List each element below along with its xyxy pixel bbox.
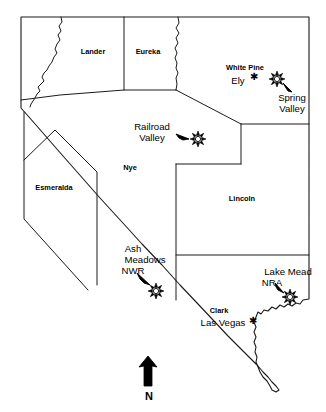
site-label-spring-valley-line1: Spring xyxy=(278,92,306,103)
north-compass-label: N xyxy=(145,390,153,402)
site-label-lake-mead-line2: NRA xyxy=(262,277,283,288)
sunburst-star-icon xyxy=(190,131,206,147)
sunburst-star-icon xyxy=(282,289,298,305)
site-label-ash-meadows-line2: Meadows xyxy=(124,254,165,265)
map-canvas: Lander Eureka White Pine Nye Esmeralda L… xyxy=(0,0,326,412)
county-label-esmeralda: Esmeralda xyxy=(35,183,73,192)
county-label-white-pine: White Pine xyxy=(226,63,264,72)
site-label-spring-valley-line2: Valley xyxy=(279,103,305,114)
site-label-railroad-valley-line1: Railroad xyxy=(134,121,170,132)
nevada-map-figure: Lander Eureka White Pine Nye Esmeralda L… xyxy=(0,0,326,412)
nevada-state-outline xyxy=(21,17,309,392)
city-marker-ely-asterisk: ✱ xyxy=(250,71,258,82)
county-label-lander: Lander xyxy=(81,47,106,56)
site-label-railroad-valley-line2: Valley xyxy=(139,132,165,143)
county-label-clark: Clark xyxy=(210,306,229,315)
county-label-eureka: Eureka xyxy=(136,47,162,56)
sunburst-star-icon xyxy=(269,71,285,87)
site-label-ash-meadows-line1: Ash xyxy=(125,243,142,254)
site-label-ash-meadows-line3: NWR xyxy=(122,265,145,276)
site-label-lake-mead-line1: Lake Mead xyxy=(264,266,311,277)
county-label-nye: Nye xyxy=(123,163,137,172)
city-marker-las-vegas-asterisk: ✱ xyxy=(249,315,257,326)
sunburst-star-icon xyxy=(148,283,164,299)
state-outline-group xyxy=(21,17,309,392)
city-label-ely: Ely xyxy=(231,75,245,86)
north-compass: N xyxy=(139,356,157,402)
county-label-lincoln: Lincoln xyxy=(229,194,256,203)
city-label-las-vegas: Las Vegas xyxy=(201,317,246,328)
north-arrow-icon xyxy=(139,356,157,386)
